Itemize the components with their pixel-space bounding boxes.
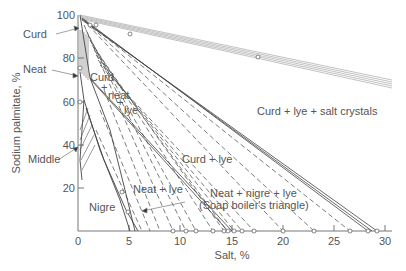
label-middle: Middle: [28, 153, 60, 165]
x-tick-labels: 0 5 10 15 20 25 30: [75, 235, 391, 247]
x-tick-15: 15: [226, 235, 238, 247]
label-nigre: Nigre: [89, 201, 115, 213]
y-tick-20: 20: [63, 182, 75, 194]
label-curd-lye-salt: Curd + lye + salt crystals: [257, 105, 378, 117]
label-soap-boilers-triangle: (Soap boiler's triangle): [199, 199, 309, 211]
y-tick-40: 40: [63, 139, 75, 151]
label-curd-neat-lye-5: lye: [124, 104, 138, 116]
y-tick-labels: 20 40 60 80 100: [57, 9, 75, 194]
label-neat: Neat: [23, 63, 46, 75]
x-tick-10: 10: [174, 235, 186, 247]
phase-diagram: 0 5 10 15 20 25 30 20 40 60 80 100 Salt,…: [0, 0, 406, 271]
label-curd-lye: Curd + lye: [182, 153, 232, 165]
y-tick-60: 60: [63, 96, 75, 108]
x-axis-title: Salt, %: [215, 249, 250, 261]
phase-boundaries: [80, 15, 138, 231]
label-neat-lye: Neat + lye: [133, 183, 183, 195]
middle-region-hatch: [80, 108, 95, 170]
x-tick-0: 0: [75, 235, 81, 247]
y-tick-80: 80: [63, 52, 75, 64]
label-curd: Curd: [23, 28, 47, 40]
x-tick-5: 5: [126, 235, 132, 247]
y-tick-100: 100: [57, 9, 75, 21]
x-tick-20: 20: [277, 235, 289, 247]
x-tick-25: 25: [328, 235, 340, 247]
label-neat-nigre-lye: Neat + nigre + lye: [210, 187, 297, 199]
label-curd-neat-lye-2: +: [101, 81, 107, 93]
x-tick-30: 30: [379, 235, 391, 247]
label-curd-neat-lye-4: +: [117, 96, 123, 108]
region-labels: Curd Neat Middle Nigre Curd + neat + lye…: [23, 28, 378, 213]
y-axis-title: Sodium palmitate, %: [10, 72, 22, 173]
